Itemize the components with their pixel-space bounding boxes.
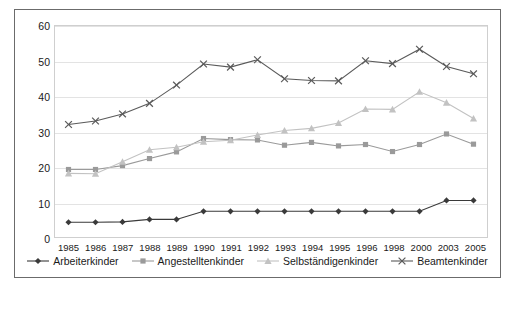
legend-label: Beamtenkinder xyxy=(417,256,488,267)
data-point-square xyxy=(147,156,152,161)
y-axis-tick-label: 0 xyxy=(44,234,50,245)
x-axis-tick-label: 2000 xyxy=(411,243,432,253)
series-line xyxy=(69,92,474,174)
legend-entry-arbeiterkinder[interactable]: Arbeiterkinder xyxy=(27,256,118,267)
data-point-square xyxy=(255,137,260,142)
chart-legend: ArbeiterkinderAngestelltenkinderSelbstän… xyxy=(15,256,500,267)
legend-entry-beamtenkinder[interactable]: Beamtenkinder xyxy=(391,256,488,267)
data-point-triangle xyxy=(335,119,342,126)
legend-label: Arbeiterkinder xyxy=(53,256,118,267)
data-point-cross xyxy=(173,82,180,89)
data-point-diamond xyxy=(200,208,206,214)
data-point-square xyxy=(390,149,395,154)
data-point-cross xyxy=(119,111,126,118)
data-point-cross xyxy=(254,56,261,63)
x-axis-tick-label: 1989 xyxy=(166,243,187,253)
y-axis-tick-label: 40 xyxy=(38,92,50,103)
series-angestelltenkinder xyxy=(66,131,476,172)
legend-marker-square-icon xyxy=(132,256,154,266)
data-point-diamond xyxy=(281,208,287,214)
x-axis-tick-label: 1988 xyxy=(139,243,160,253)
x-axis-tick-label: 1987 xyxy=(112,243,133,253)
legend-marker-cross-icon xyxy=(391,256,413,266)
x-axis-tick-label: 1991 xyxy=(221,243,242,253)
data-point-square xyxy=(417,142,422,147)
legend-entry-selbständigenkinder[interactable]: Selbständigenkinder xyxy=(257,256,378,267)
y-axis-tick-label: 10 xyxy=(38,198,50,209)
series-selbständigenkinder xyxy=(65,88,477,177)
legend-label: Angestelltenkinder xyxy=(158,256,244,267)
data-point-square xyxy=(309,140,314,145)
data-point-triangle xyxy=(470,115,477,122)
data-point-diamond xyxy=(362,208,368,214)
y-axis-tick-label: 30 xyxy=(38,127,50,138)
data-point-diamond xyxy=(389,208,395,214)
legend-entry-angestelltenkinder[interactable]: Angestelltenkinder xyxy=(132,256,244,267)
data-point-square xyxy=(363,142,368,147)
series-beamtenkinder xyxy=(65,46,477,128)
y-axis-tick-label: 20 xyxy=(38,163,50,174)
x-axis-tick-label: 2005 xyxy=(465,243,486,253)
data-point-diamond xyxy=(443,197,449,203)
x-axis-tick-label: 1985 xyxy=(58,243,79,253)
data-point-diamond xyxy=(227,208,233,214)
x-axis-tick-label: 1994 xyxy=(302,243,323,253)
data-point-square xyxy=(336,143,341,148)
x-axis-tick-label: 1990 xyxy=(194,243,215,253)
x-axis-tick-label: 1996 xyxy=(356,243,377,253)
data-point-triangle xyxy=(416,88,423,95)
legend-marker-triangle-icon xyxy=(257,256,279,266)
series-line xyxy=(69,200,474,222)
data-point-cross xyxy=(146,100,153,107)
data-point-diamond xyxy=(416,208,422,214)
y-axis-tick-label: 60 xyxy=(38,21,50,32)
data-point-diamond xyxy=(308,208,314,214)
data-point-diamond xyxy=(470,197,476,203)
data-point-diamond xyxy=(35,258,41,264)
data-point-diamond xyxy=(119,219,125,225)
data-point-triangle xyxy=(443,99,450,106)
series-line xyxy=(69,49,474,124)
data-point-square xyxy=(140,258,145,263)
x-axis-tick-label: 1995 xyxy=(329,243,350,253)
data-point-diamond xyxy=(254,208,260,214)
data-point-diamond xyxy=(146,216,152,222)
data-point-diamond xyxy=(335,208,341,214)
data-point-cross xyxy=(443,63,450,70)
data-point-square xyxy=(444,131,449,136)
data-point-square xyxy=(471,142,476,147)
data-point-square xyxy=(282,143,287,148)
data-point-diamond xyxy=(65,219,71,225)
x-axis-tick-label: 1992 xyxy=(248,243,269,253)
chart-frame: 0102030405060 19851986198719881989199019… xyxy=(14,9,501,278)
data-point-triangle xyxy=(119,158,126,165)
data-point-diamond xyxy=(92,219,98,225)
legend-label: Selbständigenkinder xyxy=(283,256,378,267)
data-point-cross xyxy=(416,46,423,53)
x-axis-tick-label: 1998 xyxy=(383,243,404,253)
legend-marker-diamond-icon xyxy=(27,256,49,266)
data-point-diamond xyxy=(173,216,179,222)
series-arbeiterkinder xyxy=(65,197,476,225)
data-point-cross xyxy=(470,70,477,77)
plot-area: 0102030405060 19851986198719881989199019… xyxy=(54,25,488,238)
y-axis-tick-label: 50 xyxy=(38,56,50,67)
x-axis-tick-label: 2003 xyxy=(438,243,459,253)
series-line xyxy=(69,134,474,170)
x-axis-tick-label: 1986 xyxy=(85,243,106,253)
x-axis-tick-label: 1993 xyxy=(275,243,296,253)
series-plot xyxy=(55,26,487,237)
